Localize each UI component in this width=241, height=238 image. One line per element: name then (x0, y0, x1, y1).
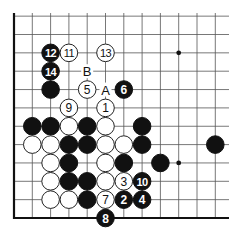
move-number: 1 (102, 101, 109, 115)
white-stone (42, 173, 60, 191)
numbered-stone-12: 12 (42, 44, 60, 62)
white-stone-icon (42, 136, 60, 154)
black-stone (42, 117, 60, 135)
white-stone (60, 191, 78, 209)
numbered-stone-6: 6 (115, 81, 133, 99)
black-stone-icon (42, 117, 60, 135)
move-number: 10 (136, 176, 148, 188)
move-number: 6 (120, 83, 127, 97)
move-number: 14 (45, 66, 58, 78)
numbered-stone-10: 10 (133, 173, 151, 191)
move-number: 9 (66, 101, 73, 115)
black-stone (78, 136, 96, 154)
numbered-stone-5: 5 (78, 81, 96, 99)
white-stone-icon (24, 136, 42, 154)
black-stone (24, 117, 42, 135)
white-stone (97, 173, 115, 191)
black-stone (78, 173, 96, 191)
black-stone-icon (133, 117, 151, 135)
point-mark-B: B (83, 64, 92, 79)
star-point (176, 161, 181, 166)
black-stone-icon (60, 154, 78, 172)
numbered-stone-9: 9 (60, 99, 78, 117)
white-stone-icon (60, 191, 78, 209)
move-number: 7 (102, 193, 109, 207)
white-stone-icon (97, 117, 115, 135)
black-stone-icon (78, 191, 96, 209)
white-stone (24, 136, 42, 154)
point-mark-A: A (101, 83, 110, 98)
numbered-stone-13: 13 (97, 44, 115, 62)
white-stone-icon (42, 154, 60, 172)
white-stone (97, 136, 115, 154)
numbered-stone-1: 1 (97, 99, 115, 117)
white-stone-icon (42, 191, 60, 209)
numbered-stone-7: 7 (97, 191, 115, 209)
white-stone-icon (60, 117, 78, 135)
black-stone (60, 154, 78, 172)
black-stone (115, 154, 133, 172)
white-stone (115, 136, 133, 154)
move-number: 3 (120, 175, 127, 189)
white-stone-icon (97, 154, 115, 172)
black-stone (133, 117, 151, 135)
black-stone-icon (78, 117, 96, 135)
black-stone-icon (133, 136, 151, 154)
white-stone-icon (42, 173, 60, 191)
black-stone (42, 81, 60, 99)
move-number: 11 (64, 47, 75, 59)
black-stone (78, 191, 96, 209)
white-stone-icon (97, 136, 115, 154)
black-stone-icon (78, 173, 96, 191)
black-stone-icon (60, 136, 78, 154)
black-stone-icon (60, 173, 78, 191)
white-stone (97, 154, 115, 172)
move-number: 4 (139, 193, 146, 207)
white-stone-icon (97, 173, 115, 191)
numbered-stone-2: 2 (115, 191, 133, 209)
white-stone (42, 154, 60, 172)
black-stone-icon (152, 154, 170, 172)
white-stone-icon (115, 136, 133, 154)
white-stone (97, 117, 115, 135)
black-stone-icon (207, 136, 225, 154)
numbered-stone-4: 4 (133, 191, 151, 209)
numbered-stone-14: 14 (42, 62, 60, 80)
move-number: 8 (102, 212, 109, 226)
move-number: 13 (100, 47, 112, 59)
star-point (176, 50, 181, 55)
go-board: 1234567891011121314 AB (0, 0, 241, 238)
move-number: 2 (120, 193, 127, 207)
black-stone-icon (42, 81, 60, 99)
black-stone (152, 154, 170, 172)
white-stone (42, 191, 60, 209)
black-stone (133, 136, 151, 154)
black-stone (60, 173, 78, 191)
black-stone-icon (115, 154, 133, 172)
black-stone-icon (24, 117, 42, 135)
black-stone (60, 136, 78, 154)
numbered-stone-3: 3 (115, 173, 133, 191)
move-number: 5 (84, 83, 91, 97)
black-stone (78, 117, 96, 135)
numbered-stone-8: 8 (97, 209, 115, 227)
white-stone (60, 117, 78, 135)
numbered-stone-11: 11 (60, 44, 78, 62)
black-stone-icon (78, 136, 96, 154)
black-stone (207, 136, 225, 154)
white-stone (42, 136, 60, 154)
move-number: 12 (45, 47, 57, 59)
